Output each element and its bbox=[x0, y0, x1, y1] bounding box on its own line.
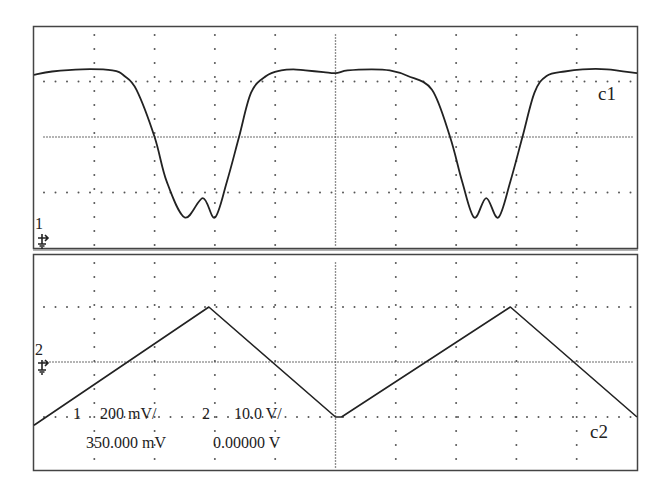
grid-dot bbox=[331, 192, 333, 194]
grid-dot bbox=[193, 306, 195, 308]
center-horizontal-axis-dot bbox=[157, 361, 159, 363]
grid-dot bbox=[154, 276, 156, 278]
center-horizontal-axis-dot bbox=[442, 361, 444, 363]
center-horizontal-axis-dot bbox=[478, 361, 480, 363]
center-horizontal-axis-dot bbox=[280, 361, 282, 363]
grid-dot bbox=[274, 216, 276, 218]
grid-dot bbox=[515, 318, 517, 320]
center-vertical-axis-dot bbox=[335, 67, 337, 69]
grid-dot bbox=[93, 290, 95, 292]
grid-dot bbox=[93, 62, 95, 64]
grid-dot bbox=[607, 416, 609, 418]
center-horizontal-axis-dot bbox=[259, 136, 261, 138]
center-horizontal-axis-dot bbox=[112, 361, 114, 363]
center-horizontal-axis-dot bbox=[493, 136, 495, 138]
center-horizontal-axis-dot bbox=[589, 361, 591, 363]
grid-dot bbox=[93, 388, 95, 390]
center-vertical-axis-dot bbox=[335, 97, 337, 99]
center-vertical-axis-dot bbox=[335, 349, 337, 351]
ch2-offset-readout: 0.00000 V bbox=[213, 434, 281, 451]
grid-dot bbox=[630, 81, 632, 83]
grid-dot bbox=[112, 306, 114, 308]
grid-dot bbox=[576, 374, 578, 376]
center-vertical-axis-dot bbox=[335, 427, 337, 429]
center-horizontal-axis-dot bbox=[295, 361, 297, 363]
grid-dot bbox=[561, 192, 563, 194]
center-vertical-axis-dot bbox=[335, 406, 337, 408]
center-horizontal-axis-dot bbox=[199, 361, 201, 363]
grid-dot bbox=[576, 174, 578, 176]
center-horizontal-axis-dot bbox=[619, 361, 621, 363]
grid-dot bbox=[66, 81, 68, 83]
center-vertical-axis-dot bbox=[335, 187, 337, 189]
grid-dot bbox=[572, 81, 574, 83]
grid-dot bbox=[124, 192, 126, 194]
grid-dot bbox=[154, 202, 156, 204]
center-horizontal-axis-dot bbox=[391, 136, 393, 138]
center-vertical-axis-dot bbox=[335, 121, 337, 123]
center-vertical-axis-dot bbox=[335, 205, 337, 207]
grid-dot bbox=[515, 458, 517, 460]
grid-dot bbox=[576, 202, 578, 204]
center-horizontal-axis-dot bbox=[58, 361, 60, 363]
grid-dot bbox=[395, 388, 397, 390]
center-horizontal-axis-dot bbox=[211, 136, 213, 138]
channel-2-ground-marker[interactable]: 2 bbox=[35, 341, 48, 374]
center-horizontal-axis-dot bbox=[73, 361, 75, 363]
grid-dot bbox=[331, 416, 333, 418]
grid-dot bbox=[66, 192, 68, 194]
center-horizontal-axis-dot bbox=[97, 361, 99, 363]
channel-1-ground-marker[interactable]: 1 bbox=[35, 215, 48, 248]
center-horizontal-axis-dot bbox=[52, 136, 54, 138]
center-horizontal-axis-dot bbox=[178, 361, 180, 363]
grid-dot bbox=[455, 290, 457, 292]
grid-dot bbox=[93, 188, 95, 190]
center-vertical-axis-dot bbox=[335, 232, 337, 234]
grid-dot bbox=[411, 306, 413, 308]
center-horizontal-axis-dot bbox=[235, 361, 237, 363]
grid-dot bbox=[308, 306, 310, 308]
grid-dot bbox=[455, 34, 457, 36]
grid-dot bbox=[273, 192, 275, 194]
grid-dot bbox=[158, 81, 160, 83]
center-vertical-axis-dot bbox=[335, 85, 337, 87]
grid-dot bbox=[216, 81, 218, 83]
center-horizontal-axis-dot bbox=[430, 361, 432, 363]
grid-dot bbox=[101, 81, 103, 83]
center-horizontal-axis-dot bbox=[289, 136, 291, 138]
center-horizontal-axis-dot bbox=[130, 136, 132, 138]
center-horizontal-axis-dot bbox=[490, 136, 492, 138]
center-horizontal-axis-dot bbox=[232, 136, 234, 138]
center-horizontal-axis-dot bbox=[142, 361, 144, 363]
grid-dot bbox=[214, 430, 216, 432]
center-horizontal-axis-dot bbox=[421, 361, 423, 363]
grid-dot bbox=[576, 118, 578, 120]
grid-dot bbox=[296, 81, 298, 83]
center-vertical-axis-dot bbox=[335, 115, 337, 117]
center-horizontal-axis-dot bbox=[265, 361, 267, 363]
center-horizontal-axis-dot bbox=[481, 136, 483, 138]
grid-dot bbox=[515, 306, 517, 308]
center-vertical-axis-dot bbox=[335, 394, 337, 396]
grid-dot bbox=[214, 290, 216, 292]
center-horizontal-axis-dot bbox=[286, 136, 288, 138]
center-vertical-axis-dot bbox=[335, 139, 337, 141]
center-horizontal-axis-dot bbox=[439, 136, 441, 138]
center-horizontal-axis-dot bbox=[205, 361, 207, 363]
center-vertical-axis-dot bbox=[335, 319, 337, 321]
center-horizontal-axis-dot bbox=[436, 136, 438, 138]
grid-dot bbox=[93, 48, 95, 50]
grid-dot bbox=[308, 192, 310, 194]
center-horizontal-axis-dot bbox=[310, 136, 312, 138]
center-horizontal-axis-dot bbox=[133, 136, 135, 138]
center-horizontal-axis-dot bbox=[340, 361, 342, 363]
grid-dot bbox=[526, 416, 528, 418]
grid-dot bbox=[576, 262, 578, 264]
center-horizontal-axis-dot bbox=[370, 136, 372, 138]
center-horizontal-axis-dot bbox=[52, 361, 54, 363]
center-horizontal-axis-dot bbox=[403, 361, 405, 363]
grid-dot bbox=[377, 81, 379, 83]
grid-dot bbox=[55, 192, 57, 194]
grid-dot bbox=[274, 34, 276, 36]
center-horizontal-axis-dot bbox=[532, 361, 534, 363]
